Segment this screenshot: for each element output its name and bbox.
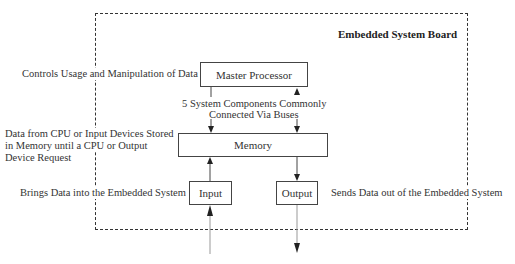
master-processor-label: Master Processor [216,69,292,81]
output-label: Output [282,187,313,199]
arrow-memory-to-output-icon [294,174,300,181]
processor-description: Controls Usage and Manipulation of Data [22,68,200,80]
arrow-output-to-external-icon [294,243,300,253]
input-description: Brings Data into the Embedded System [20,187,188,199]
memory-box: Memory [178,133,328,157]
arrow-external-to-input-icon [207,205,213,216]
memory-description-line1: Data from CPU or Input Devices Stored [5,128,174,140]
output-box: Output [276,181,318,205]
memory-description-line2: in Memory until a CPU or Output [5,140,147,152]
bus-description-line2: Connected Via Buses [209,109,299,121]
output-description: Sends Data out of the Embedded System [329,187,504,199]
memory-label: Memory [234,139,272,151]
input-box: Input [189,181,232,205]
master-processor-box: Master Processor [200,62,308,87]
arrow-down-to-memory-icon [208,126,214,133]
memory-description-line3: Device Request [5,152,71,164]
input-label: Input [199,187,222,199]
arrow-input-to-memory-icon [207,157,213,164]
arrow-up-to-processor-icon [294,88,300,95]
arrow-down-to-memory-right-icon [294,126,300,133]
